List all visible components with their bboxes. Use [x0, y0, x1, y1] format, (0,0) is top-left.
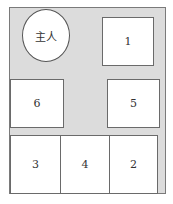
- seat-label: 6: [34, 97, 41, 110]
- seat-label: 3: [32, 158, 39, 171]
- host-seat: 主人: [22, 9, 70, 62]
- seat-label: 5: [130, 97, 137, 110]
- host-label: 主人: [35, 28, 57, 44]
- seat-2: 2: [109, 135, 158, 194]
- seat-1: 1: [102, 17, 154, 66]
- seat-5: 5: [107, 79, 160, 128]
- seat-6: 6: [10, 79, 64, 128]
- seat-3: 3: [10, 135, 61, 194]
- seat-4: 4: [60, 135, 110, 194]
- seat-label: 1: [125, 35, 132, 48]
- seat-label: 4: [82, 158, 89, 171]
- seat-label: 2: [130, 158, 137, 171]
